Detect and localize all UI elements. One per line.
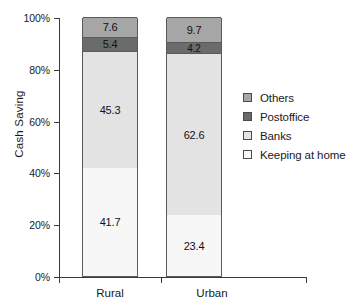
legend-swatch-icon: [243, 93, 252, 102]
bar-rural[interactable]: 41.7 45.3 5.4 7.6: [82, 18, 138, 277]
x-axis-line: [59, 277, 307, 278]
y-tick-label-80: 80%: [6, 64, 50, 76]
x-tick-mark-left: [59, 277, 60, 283]
y-tick-label-40: 40%: [6, 167, 50, 179]
x-tick-label-urban: Urban: [167, 287, 257, 299]
legend-item-others[interactable]: Others: [243, 88, 345, 107]
segment-value: 7.6: [103, 21, 118, 33]
segment-value: 62.6: [184, 129, 205, 141]
y-tick-label-60: 60%: [6, 116, 50, 128]
legend-label: Banks: [260, 130, 291, 142]
segment-urban-others[interactable]: 9.7: [167, 17, 221, 42]
segment-urban-keeping-at-home[interactable]: 23.4: [167, 215, 221, 276]
segment-value: 5.4: [103, 38, 118, 50]
legend-item-keeping-at-home[interactable]: Keeping at home: [243, 145, 345, 164]
segment-rural-others[interactable]: 7.6: [83, 17, 137, 37]
legend-swatch-icon: [243, 112, 252, 121]
segment-value: 4.2: [187, 43, 200, 54]
x-axis-end-cap: [306, 277, 307, 283]
legend-label: Postoffice: [260, 111, 309, 123]
legend-swatch-icon: [243, 150, 252, 159]
y-tick-label-0: 0%: [6, 271, 50, 283]
legend: Others Postoffice Banks Keeping at home: [243, 88, 345, 164]
segment-value: 23.4: [184, 240, 205, 252]
x-tick-label-rural: Rural: [65, 287, 155, 299]
segment-rural-postoffice[interactable]: 5.4: [83, 37, 137, 51]
segment-value: 45.3: [100, 104, 121, 116]
legend-label: Keeping at home: [260, 149, 345, 161]
segment-rural-keeping-at-home[interactable]: 41.7: [83, 168, 137, 276]
legend-item-postoffice[interactable]: Postoffice: [243, 107, 345, 126]
y-tick-label-100: 100%: [6, 12, 50, 24]
segment-urban-banks[interactable]: 62.6: [167, 53, 221, 215]
x-tick-mark-middle: [161, 277, 162, 283]
bar-urban[interactable]: 23.4 62.6 4.2 9.7: [166, 18, 222, 277]
segment-urban-postoffice[interactable]: 4.2: [167, 42, 221, 53]
stacked-bar-chart: Cash Saving 100% 80% 60% 40% 20% 0% 41.7…: [0, 0, 355, 308]
segment-rural-banks[interactable]: 45.3: [83, 51, 137, 168]
legend-label: Others: [260, 92, 294, 104]
legend-swatch-icon: [243, 131, 252, 140]
segment-value: 9.7: [187, 24, 202, 36]
y-tick-label-20: 20%: [6, 219, 50, 231]
y-axis-tick-labels: 100% 80% 60% 40% 20% 0%: [2, 0, 50, 308]
legend-item-banks[interactable]: Banks: [243, 126, 345, 145]
segment-value: 41.7: [100, 216, 121, 228]
